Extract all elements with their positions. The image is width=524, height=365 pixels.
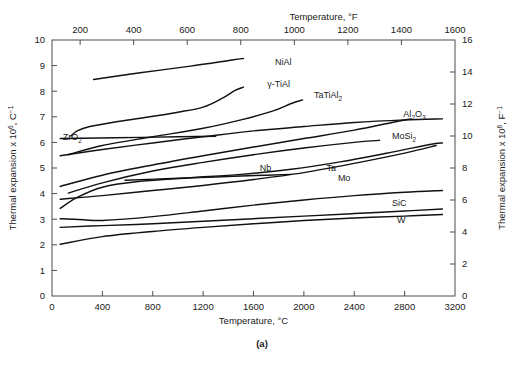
plot-frame — [52, 40, 455, 296]
y-tick-label: 10 — [34, 34, 45, 45]
y-tick-label: 4 — [40, 188, 45, 199]
y2-tick-label: 6 — [462, 194, 467, 205]
y-tick-label: 9 — [40, 60, 45, 71]
y-axis-title: Thermal expansion x 106, C−1 — [7, 105, 18, 230]
x-axis-title: Temperature, °C — [219, 315, 288, 326]
y2-tick-label: 14 — [462, 66, 473, 77]
curve-NiAl — [94, 58, 244, 79]
curve-label-Al2O3: Al2O3 — [403, 109, 426, 121]
x-tick-label: 2800 — [394, 301, 415, 312]
x2-axis-title: Temperature, °F — [289, 11, 357, 22]
x-tick-label: 3200 — [444, 301, 465, 312]
curve-label-Mo: Mo — [338, 173, 351, 183]
y2-tick-label: 16 — [462, 34, 473, 45]
curve-TaTiAl2 — [68, 100, 302, 155]
x-tick-label: 2000 — [293, 301, 314, 312]
curve-label-TaTiAl2: TaTiAl2 — [314, 90, 343, 102]
y2-axis-title: Thermal expansion x 106, F−1 — [496, 106, 507, 230]
x2-tick-label: 200 — [72, 24, 88, 35]
x-tick-label: 400 — [94, 301, 110, 312]
curve-gamma-TiAl — [71, 87, 244, 136]
y2-tick-label: 0 — [462, 290, 467, 301]
curve-label-Ta: Ta — [327, 163, 337, 173]
y-tick-label: 8 — [40, 86, 45, 97]
x2-tick-label: 800 — [233, 24, 249, 35]
y-tick-label: 0 — [40, 290, 45, 301]
x-tick-label: 1600 — [243, 301, 264, 312]
y-tick-label: 2 — [40, 239, 45, 250]
x2-tick-label: 1600 — [444, 24, 465, 35]
x-tick-label: 1200 — [193, 301, 214, 312]
x-tick-label: 0 — [49, 301, 54, 312]
y-tick-label: 1 — [40, 265, 45, 276]
curve-label-Nb: Nb — [260, 163, 272, 173]
x2-tick-label: 1200 — [337, 24, 358, 35]
x-tick-label: 2400 — [344, 301, 365, 312]
y-tick-label: 3 — [40, 214, 45, 225]
figure-caption: (a) — [256, 338, 268, 349]
curve-label-gamma-TiAl: γ-TiAl — [267, 79, 290, 89]
x2-tick-label: 1000 — [284, 24, 305, 35]
x-tick-label: 800 — [145, 301, 161, 312]
y-tick-label: 6 — [40, 137, 45, 148]
thermal-expansion-chart: 0400800120016002000240028003200Temperatu… — [0, 0, 524, 365]
y2-tick-label: 8 — [462, 162, 467, 173]
y2-tick-label: 4 — [462, 226, 467, 237]
curve-label-W: W — [397, 215, 406, 225]
figure-container: 0400800120016002000240028003200Temperatu… — [0, 0, 524, 365]
curve-label-NiAl: NiAl — [275, 57, 292, 67]
y-tick-label: 5 — [40, 162, 45, 173]
curve-label-ZrO2: ZrO2 — [63, 132, 83, 144]
y2-tick-label: 2 — [462, 258, 467, 269]
y-tick-label: 7 — [40, 111, 45, 122]
curve-label-SiC: SiC — [392, 198, 407, 208]
y2-tick-label: 10 — [462, 130, 473, 141]
x2-tick-label: 400 — [126, 24, 142, 35]
curve-label-MoSi2: MoSi2 — [392, 131, 417, 143]
x2-tick-label: 600 — [179, 24, 195, 35]
x2-tick-label: 1400 — [391, 24, 412, 35]
y2-tick-label: 12 — [462, 98, 473, 109]
